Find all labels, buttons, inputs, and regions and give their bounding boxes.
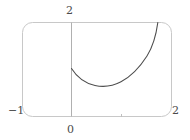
figure-container: 2 −1 0 2: [0, 0, 190, 140]
plot-canvas: [0, 0, 190, 140]
plot-frame: [23, 23, 172, 117]
function-curve: [72, 23, 158, 87]
y-axis-max-label: 2: [66, 5, 73, 16]
x-axis-max-label: 2: [172, 105, 179, 116]
origin-label: 0: [67, 124, 74, 135]
x-axis-min-label: −1: [8, 105, 24, 116]
